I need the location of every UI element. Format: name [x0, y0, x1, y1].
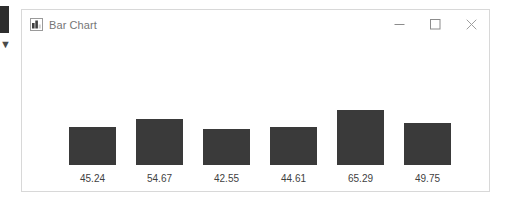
minimize-icon [394, 19, 405, 30]
close-button[interactable] [453, 10, 489, 39]
chart-area: 45.2454.6742.5544.6165.2949.75 [22, 39, 489, 191]
title-bar[interactable]: Bar Chart [22, 10, 489, 39]
bar-chart-window: Bar Chart 45.2454.6742.5544.6165.2 [21, 9, 490, 192]
bar [69, 127, 116, 165]
close-icon [466, 19, 477, 30]
window-title: Bar Chart [49, 19, 97, 31]
window-controls [381, 10, 489, 39]
bar-value-label: 65.29 [337, 173, 384, 184]
bar [404, 123, 451, 165]
bar-value-label: 45.24 [69, 173, 116, 184]
bar-value-label: 44.61 [270, 173, 317, 184]
desktop-icon-fragment: ▼ [0, 6, 11, 52]
bar-value-label: 42.55 [203, 173, 250, 184]
maximize-button[interactable] [417, 10, 453, 39]
bar [337, 110, 384, 165]
bar [203, 129, 250, 165]
bar-chart-plot: 45.2454.6742.5544.6165.2949.75 [22, 39, 489, 191]
bar [270, 127, 317, 165]
bar-value-label: 54.67 [136, 173, 183, 184]
desktop-icon-fragment-glyph: ▼ [0, 38, 8, 50]
title-bar-left: Bar Chart [22, 18, 381, 31]
maximize-icon [430, 19, 441, 30]
bar [136, 119, 183, 165]
bar-value-label: 49.75 [404, 173, 451, 184]
bar-chart-icon [30, 18, 43, 31]
minimize-button[interactable] [381, 10, 417, 39]
desktop-icon-fragment-block [0, 6, 9, 33]
